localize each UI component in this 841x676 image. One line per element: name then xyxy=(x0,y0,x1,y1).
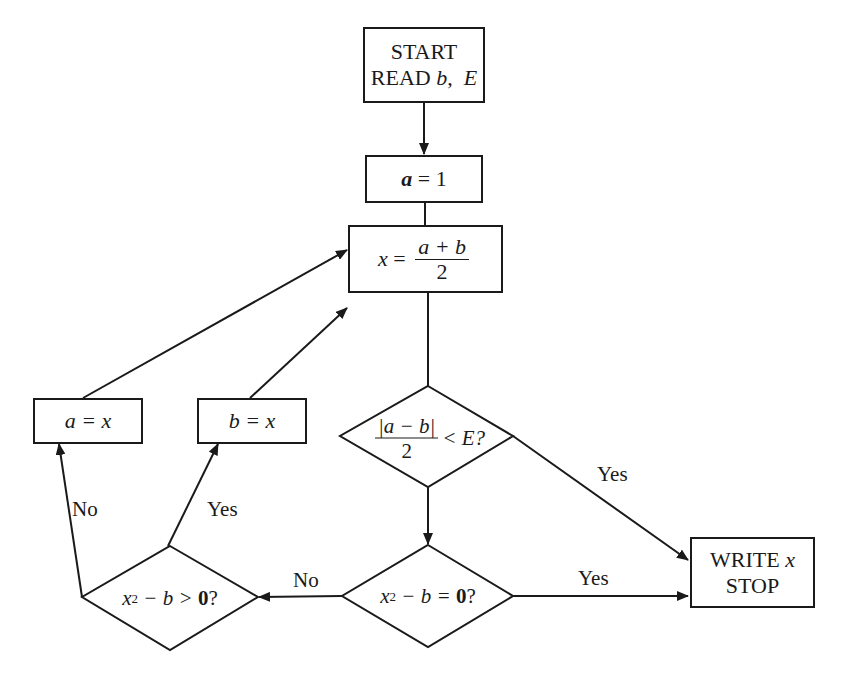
write-label: WRITE x xyxy=(710,547,795,573)
sign-yes-label: Yes xyxy=(207,497,238,522)
tolerance-numerator: |a − b| xyxy=(375,414,438,439)
assign-a-label: a = x xyxy=(65,408,112,434)
arrow-root-no-to-sign xyxy=(259,596,342,597)
read-inputs-label: READ b, E xyxy=(371,65,477,91)
midpoint-op: = xyxy=(388,246,411,272)
tolerance-condition: < E? xyxy=(442,426,485,451)
root-no-label: No xyxy=(293,568,319,593)
arrow-tolerance-yes-to-output xyxy=(513,436,688,560)
sign-no-label: No xyxy=(72,497,98,522)
midpoint-numerator: a + b xyxy=(415,235,469,260)
sign-check-label: x2 − b > 0? xyxy=(122,586,218,611)
root-check-label: x2 − b = 0? xyxy=(380,584,476,609)
start-box: START READ b, E xyxy=(363,27,485,103)
midpoint-denominator: 2 xyxy=(437,260,448,284)
assign-b-label: b = x xyxy=(229,408,276,434)
assign-a-box: a = x xyxy=(33,398,143,444)
midpoint-fraction: a + b 2 xyxy=(415,235,469,284)
stop-label: STOP xyxy=(726,573,779,599)
midpoint-box: x = a + b 2 xyxy=(348,225,503,293)
arrow-assign-a-to-midpoint xyxy=(83,250,347,398)
start-label: START xyxy=(391,39,458,65)
init-box: a = 1 xyxy=(365,155,483,203)
assign-b-box: b = x xyxy=(197,398,307,444)
tolerance-fraction: |a − b| 2 xyxy=(375,414,438,463)
arrow-assign-b-to-midpoint xyxy=(250,308,347,398)
tolerance-check-label: |a − b| 2 < E? xyxy=(371,414,485,463)
midpoint-lhs: x xyxy=(378,246,388,272)
tolerance-yes-label: Yes xyxy=(597,462,628,487)
root-yes-label: Yes xyxy=(578,566,609,591)
arrow-sign-yes-to-assign-b xyxy=(168,444,218,546)
init-label: a = 1 xyxy=(401,166,446,192)
output-box: WRITE x STOP xyxy=(690,537,815,608)
tolerance-denominator: 2 xyxy=(401,439,412,463)
